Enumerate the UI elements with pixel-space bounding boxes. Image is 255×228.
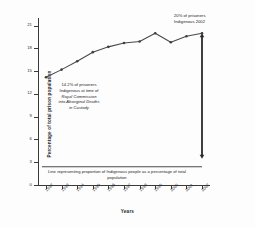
- annotation-start-line-5: in Custody: [40, 105, 118, 111]
- data-point-1998: [138, 40, 141, 43]
- annotation-end-value: 20% of prisoners Indigenous 2002: [174, 13, 250, 25]
- annotation-reference-line: Line representing proportion of Indigeno…: [42, 169, 192, 181]
- data-point-1993: [60, 68, 63, 71]
- data-point-1997: [123, 42, 126, 45]
- chart-container: Percentage of total prison population 03…: [0, 0, 255, 228]
- data-point-1995: [92, 51, 95, 54]
- data-point-1992: [45, 76, 48, 79]
- annotation-start-value: 14.2% of prisoners Indigenous at time of…: [40, 82, 118, 111]
- data-point-2001: [185, 35, 188, 38]
- gap-arrow: [200, 33, 205, 159]
- plot-canvas: [0, 0, 255, 228]
- data-point-1996: [107, 46, 110, 49]
- series-line-indigenous-prisoners: [46, 33, 202, 77]
- data-point-1999: [154, 32, 157, 35]
- annotation-end-line-2: Indigenous 2002: [174, 19, 250, 25]
- x-axis-title: Years: [0, 209, 255, 214]
- data-point-1994: [76, 60, 79, 63]
- data-point-2000: [170, 41, 173, 44]
